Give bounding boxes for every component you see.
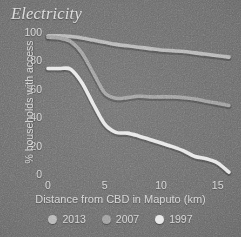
legend-item-2007[interactable]: 2007	[102, 213, 139, 225]
legend-item-1997[interactable]: 1997	[155, 213, 192, 225]
legend-marker-icon	[102, 215, 111, 224]
legend-marker-icon	[48, 215, 57, 224]
legend-label: 2013	[62, 213, 85, 225]
chart-legend: 201320071997	[0, 213, 241, 225]
legend-label: 2007	[116, 213, 139, 225]
legend-marker-icon	[155, 215, 164, 224]
series-lines	[48, 36, 229, 174]
x-tick-label: 15	[206, 179, 230, 191]
x-axis-label: Distance from CBD in Maputo (km)	[0, 193, 241, 205]
legend-label: 1997	[169, 213, 192, 225]
x-tick-label: 5	[93, 179, 117, 191]
chart-title: Electricity	[11, 4, 82, 24]
legend-item-2013[interactable]: 2013	[48, 213, 85, 225]
series-line-1997	[48, 68, 229, 172]
x-tick-label: 10	[149, 179, 173, 191]
chart-figure: Electricity 020406080100 051015 % househ…	[0, 0, 241, 237]
y-axis-label: % households with access	[23, 34, 35, 170]
x-tick-label: 0	[36, 179, 60, 191]
